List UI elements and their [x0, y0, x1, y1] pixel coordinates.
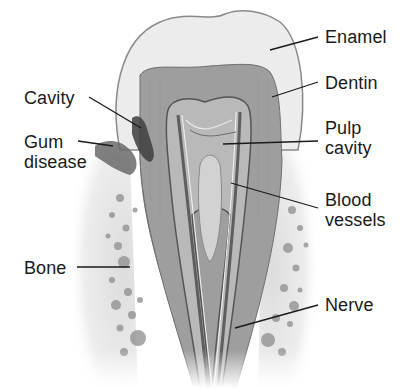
- label-enamel: Enamel: [325, 27, 387, 47]
- label-nerve: Nerve: [325, 295, 374, 315]
- label-bone: Bone: [24, 258, 66, 278]
- label-blood-vessels: Blood vessels: [325, 190, 386, 230]
- label-dentin: Dentin: [325, 73, 378, 93]
- label-cavity: Cavity: [24, 88, 75, 108]
- label-pulp-cavity: Pulp cavity: [325, 118, 372, 158]
- label-gum-disease: Gum disease: [24, 132, 87, 172]
